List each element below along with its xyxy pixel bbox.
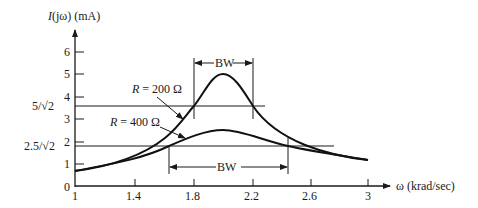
resonance-chart: I(jω) (mA) ω (krad/sec) 0 1 2 3 4 5 6 1 … <box>0 0 478 208</box>
y-axis-label: I(jω) (mA) <box>47 9 100 23</box>
pointer-200 <box>157 97 183 119</box>
svg-text:BW: BW <box>217 160 237 174</box>
svg-text:1: 1 <box>64 157 70 171</box>
bw-marker-200: BW <box>194 56 253 119</box>
x-axis-label: ω (krad/sec) <box>396 179 455 193</box>
svg-text:6: 6 <box>64 45 70 59</box>
bw-marker-400: BW <box>169 138 288 174</box>
svg-text:1: 1 <box>72 189 78 203</box>
svg-text:0: 0 <box>64 180 70 194</box>
svg-text:1.4: 1.4 <box>126 189 141 203</box>
svg-text:3: 3 <box>64 112 70 126</box>
pointer-400 <box>160 127 185 138</box>
series-label-200: R = 200 Ω <box>131 82 182 96</box>
svg-text:2: 2 <box>64 135 70 149</box>
svg-text:2.2: 2.2 <box>244 189 259 203</box>
series-label-400: R = 400 Ω <box>109 115 160 129</box>
svg-text:1.8: 1.8 <box>185 189 200 203</box>
svg-text:2.6: 2.6 <box>302 189 317 203</box>
svg-text:4: 4 <box>64 90 70 104</box>
ref-label-low: 2.5/√2 <box>24 139 55 153</box>
ref-label-high: 5/√2 <box>32 99 54 113</box>
x-ticks: 1 1.4 1.8 2.2 2.6 3 <box>72 179 371 203</box>
svg-text:5: 5 <box>64 67 70 81</box>
svg-text:BW: BW <box>215 56 235 70</box>
svg-text:3: 3 <box>365 189 371 203</box>
y-ticks: 0 1 2 3 4 5 6 <box>64 45 84 194</box>
